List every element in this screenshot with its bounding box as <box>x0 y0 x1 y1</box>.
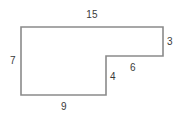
dimension-label-notch-top-side: 6 <box>130 63 136 73</box>
dimension-label-right-side: 3 <box>167 37 173 47</box>
dimension-label-notch-vertical-side: 4 <box>110 72 116 82</box>
l-shape-polygon <box>21 27 163 95</box>
dimension-label-top-side: 15 <box>86 10 98 20</box>
geometry-figure: 1536479 <box>0 0 187 120</box>
dimension-label-left-side: 7 <box>10 56 16 66</box>
dimension-label-bottom-side: 9 <box>61 102 67 112</box>
